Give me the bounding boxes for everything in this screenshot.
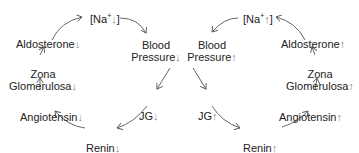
right-angiotensin-label: Angiotensin↑ [279,111,342,123]
left-jg-label: JG↓ [139,110,159,122]
left-renin-label: Renin↓ [86,142,120,153]
right-jg-label: JG↑ [198,110,218,122]
left-angiotensin-label: Angiotensin↓ [20,111,83,123]
left-blood-pressure-label: BloodPressure↓ [126,39,186,63]
right-zona-glomerulosa-label: ZonaGlomerulosa↑ [285,68,355,92]
left-aldosterone-label: Aldosterone↓ [16,38,80,50]
left-zona-glomerulosa-label: ZonaGlomerulosa↓ [8,68,78,92]
right-blood-pressure-label: BloodPressure↑ [182,39,242,63]
left-sodium-label: [Na+↓] [90,10,120,25]
right-renin-label: Renin↑ [243,142,277,153]
right-sodium-label: [Na+↑] [243,10,273,25]
right-aldosterone-label: Aldosterone↑ [281,38,345,50]
